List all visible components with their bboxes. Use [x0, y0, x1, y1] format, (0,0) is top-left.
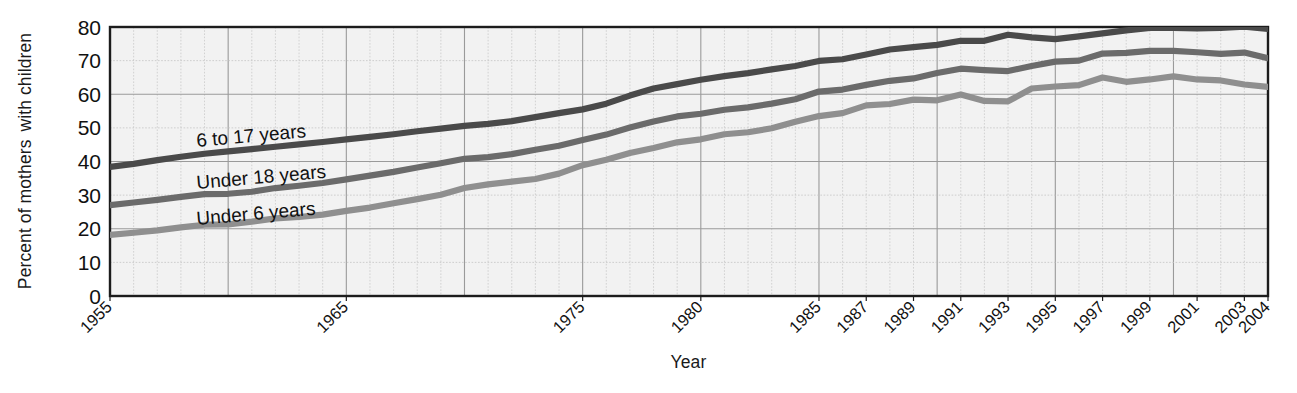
y-tick-label: 10 — [78, 251, 101, 274]
x-tick-label: 1955 — [76, 297, 115, 336]
y-tick-label: 60 — [78, 83, 101, 106]
x-tick-label: 1985 — [785, 297, 824, 336]
x-tick-label: 1975 — [549, 297, 588, 336]
x-tick-label: 1989 — [880, 297, 919, 336]
y-tick-label: 40 — [78, 150, 101, 173]
x-tick-labels: 1955196519751980198519871989199119931995… — [76, 296, 1273, 336]
line-chart-plot: 01020304050607080 1955196519751980198519… — [0, 0, 1297, 393]
y-tick-labels: 01020304050607080 — [78, 16, 101, 308]
x-tick-label: 1991 — [927, 297, 966, 336]
y-tick-label: 20 — [78, 217, 101, 240]
y-tick-label: 70 — [78, 49, 101, 72]
y-tick-label: 30 — [78, 184, 101, 207]
y-tick-label: 50 — [78, 116, 101, 139]
x-axis-title: Year — [0, 352, 1297, 373]
x-tick-label: 1995 — [1022, 297, 1061, 336]
x-tick-label: 1987 — [833, 297, 872, 336]
chart-figure: Percent of mothers with children Year 01… — [0, 0, 1297, 393]
x-tick-label: 1980 — [667, 297, 706, 336]
x-tick-label: 2001 — [1164, 297, 1203, 336]
x-tick-label: 1997 — [1069, 297, 1108, 336]
x-tick-label: 1993 — [974, 297, 1013, 336]
y-tick-label: 80 — [78, 16, 101, 39]
x-tick-label: 1999 — [1116, 297, 1155, 336]
x-axis-title-label: Year — [670, 352, 706, 372]
x-tick-label: 1965 — [313, 297, 352, 336]
